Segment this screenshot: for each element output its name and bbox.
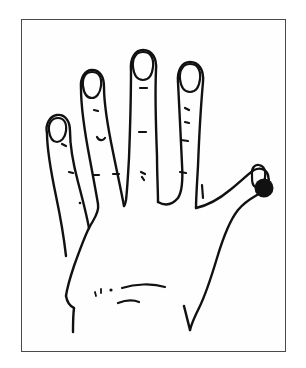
hand-left-outer-edge [66,228,89,296]
pinky-finger-inner-edge [47,133,66,256]
wrist-crease-lower [118,301,139,303]
wrist-crease-tick-b [95,292,96,296]
middle-finger-inner-edge [124,70,131,206]
wrist-dot [109,288,112,291]
knuckle-dash-index-mid [181,140,188,141]
wrist-left-edge [73,308,74,332]
knuckle-dash-pinky-low [69,172,73,173]
thumb-tip-marker [255,179,274,198]
thumb-outline-lower [190,192,262,330]
hand-drawing [0,0,306,368]
knuckle-dash-pinky-mid [62,144,66,146]
knuckle-dash-index-low [180,172,186,173]
middle-nail-outline [133,52,153,80]
index-nail-outline [180,64,200,92]
index-base-tick [202,185,203,198]
wrist-right-edge [184,306,190,330]
pinky-finger-outline [47,115,89,228]
index-finger-inner-edge [158,82,182,204]
ring-nail-outline [83,72,101,98]
knuckle-dash-index-upper [185,108,189,110]
knuckle-dot-pinky [79,202,82,205]
knuckle-dash-ring-mid [94,110,98,111]
knuckle-dash-middle-base [142,177,144,180]
drawing-page [0,0,306,368]
knuckle-dash-ring-curve [97,137,105,140]
wrist-crease-upper [122,284,165,288]
ring-finger-outline [81,70,124,206]
pinky-nail-outline [49,118,66,142]
knuckle-dash-middle-low [141,172,145,174]
hand-left-lower-edge [66,296,74,308]
knuckle-dash-index-base [185,122,189,123]
